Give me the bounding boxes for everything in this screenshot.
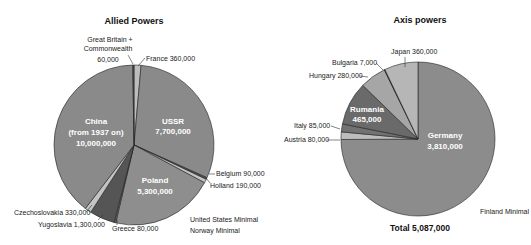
label-great-britain-line2: Commonwealth [84, 45, 133, 52]
label-ussr-name: USSR [162, 117, 184, 126]
axis-title: Axis powers [393, 15, 446, 25]
leader-great-britain [128, 55, 133, 64]
leader-france [138, 58, 145, 66]
leader-italy [331, 126, 340, 129]
note-norway: Norway Minimal [190, 227, 240, 235]
label-germany-value: 3,810,000 [427, 142, 463, 151]
leader-holland [206, 178, 210, 183]
label-czechoslovakia: Czechoslovakia 330,000 [14, 209, 90, 216]
label-belgium: Belgium 90,000 [216, 170, 265, 178]
label-rumania-name: Rumania [350, 105, 384, 114]
label-japan: Japan 360,000 [391, 48, 437, 56]
label-poland-name: Poland [142, 176, 169, 185]
label-austria: Austria 80,000 [284, 136, 329, 143]
label-ussr-value: 7,700,000 [155, 127, 191, 136]
allied-title: Allied Powers [104, 16, 163, 26]
label-yugoslavia: Yugoslavia 1,300,000 [38, 221, 105, 229]
chart-canvas: Allied Powers Axis powers Great Britain … [0, 0, 531, 245]
label-rumania-value: 465,000 [353, 115, 382, 124]
label-italy: Italy 85,000 [294, 122, 330, 130]
label-poland-value: 5,300,000 [137, 187, 173, 196]
note-finland: Finland Minimal [480, 208, 529, 215]
note-united-states: United States Minimal [190, 216, 259, 223]
leader-bulgaria [376, 63, 383, 70]
label-germany-name: Germany [428, 131, 463, 140]
label-great-britain-line1: Great Britain + [87, 36, 132, 43]
label-greece: Greece 80,000 [112, 225, 158, 232]
axis-total: Total 5,087,000 [390, 223, 450, 233]
label-china-value: 10,000,000 [76, 139, 117, 148]
label-china-name: China [85, 117, 108, 126]
axis-pie [341, 62, 495, 216]
label-great-britain-value: 60,000 [97, 56, 119, 63]
label-bulgaria: Bulgaria 7,000 [332, 59, 377, 67]
label-france: France 360,000 [146, 55, 195, 62]
label-china-sub: (from 1937 on) [68, 128, 123, 137]
label-hungary: Hungary 280,000 [309, 72, 363, 80]
label-holland: Holland 190,000 [210, 182, 261, 189]
